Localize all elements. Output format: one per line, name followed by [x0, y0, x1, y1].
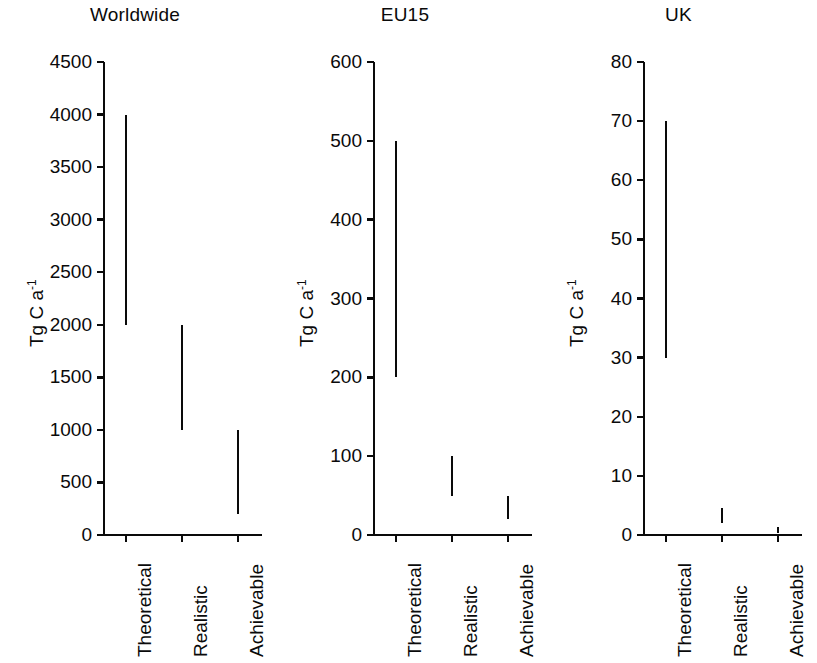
- y-axis-title: Tg C a-1: [26, 279, 48, 347]
- chart-panel-uk: UK 01020304050607080TheoreticalRealistic…: [540, 0, 817, 663]
- x-axis-category-label: Realistic: [190, 585, 212, 657]
- x-axis-category-label: Theoretical: [134, 563, 156, 657]
- y-axis-title: Tg C a-1: [566, 279, 588, 347]
- y-axis-title-text: Tg C a: [296, 289, 317, 346]
- y-axis-title-exponent: -1: [565, 279, 579, 290]
- figure-canvas: Worldwide 050010001500200025003000350040…: [0, 0, 817, 663]
- y-axis-title-text: Tg C a: [26, 289, 47, 346]
- y-axis-title-exponent: -1: [295, 279, 309, 290]
- x-axis-category-label: Achievable: [786, 564, 808, 657]
- x-axis-category-label: Achievable: [246, 564, 268, 657]
- y-axis-title-text: Tg C a: [566, 289, 587, 346]
- x-axis-category-label: Realistic: [460, 585, 482, 657]
- x-axis-category-label: Theoretical: [404, 563, 426, 657]
- y-axis-title-exponent: -1: [25, 279, 39, 290]
- x-axis-category-label: Theoretical: [674, 563, 696, 657]
- y-axis-title: Tg C a-1: [296, 279, 318, 347]
- x-axis-category-label: Achievable: [516, 564, 538, 657]
- chart-panel-worldwide: Worldwide 050010001500200025003000350040…: [0, 0, 270, 663]
- chart-panel-eu15: EU15 0100200300400500600TheoreticalReali…: [270, 0, 540, 663]
- x-axis-category-label: Realistic: [730, 585, 752, 657]
